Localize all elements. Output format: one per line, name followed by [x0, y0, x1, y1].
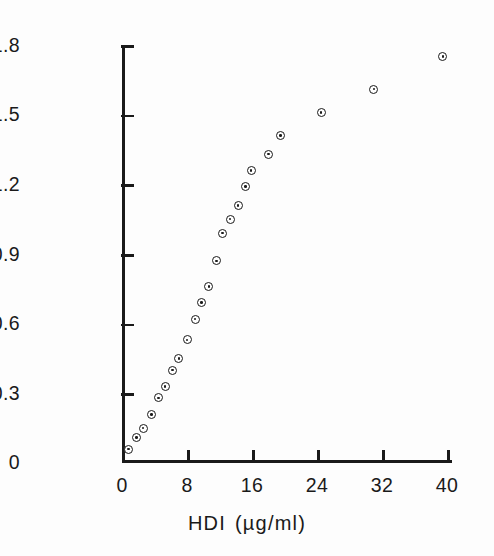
data-point — [191, 315, 200, 324]
x-tick-label: 16 — [222, 476, 282, 496]
data-point — [317, 108, 326, 117]
x-axis-line — [122, 460, 452, 463]
plot-area — [122, 45, 452, 463]
chart-figure: 1.8 1.5 1.2 0.9 0.6 0.3 0 0 8 16 24 32 4… — [0, 0, 494, 556]
data-point — [197, 298, 206, 307]
data-point — [234, 201, 243, 210]
data-point — [369, 85, 378, 94]
data-point — [438, 52, 447, 61]
y-tick-label: 1.2 — [0, 175, 20, 195]
data-point — [241, 182, 250, 191]
x-tick-label: 8 — [157, 476, 217, 496]
x-axis-tick — [252, 450, 255, 463]
y-axis-tick — [121, 45, 134, 48]
y-axis-tick — [121, 324, 134, 327]
x-tick-label: 32 — [352, 476, 412, 496]
x-axis-title-main: HDI — [188, 512, 226, 534]
data-point — [154, 393, 163, 402]
y-tick-label: 1.5 — [0, 105, 20, 125]
data-point — [204, 282, 213, 291]
data-point — [218, 229, 227, 238]
data-point — [124, 445, 133, 454]
data-point — [168, 366, 177, 375]
data-point — [147, 410, 156, 419]
data-point — [161, 382, 170, 391]
data-point — [226, 215, 235, 224]
data-point — [139, 424, 148, 433]
data-point — [132, 433, 141, 442]
data-point — [183, 335, 192, 344]
y-axis-tick — [121, 184, 134, 187]
x-axis-tick — [447, 450, 450, 463]
data-point — [264, 150, 273, 159]
x-tick-label: 40 — [417, 476, 477, 496]
x-axis-tick — [187, 450, 190, 463]
y-axis-tick — [121, 393, 134, 396]
x-axis-title: HDI(µg/ml) — [0, 513, 494, 533]
data-point — [276, 131, 285, 140]
y-tick-label: 0.6 — [0, 314, 20, 334]
y-tick-label: 0 — [0, 453, 20, 473]
y-tick-label: 1.8 — [0, 36, 20, 56]
y-tick-label: 0.3 — [0, 384, 20, 404]
x-axis-tick — [317, 450, 320, 463]
data-point — [247, 166, 256, 175]
y-axis-tick — [121, 115, 134, 118]
y-axis-tick — [121, 254, 134, 257]
x-axis-title-units: (µg/ml) — [235, 512, 306, 534]
x-tick-label: 24 — [287, 476, 347, 496]
y-tick-label: 0.9 — [0, 245, 20, 265]
data-point — [174, 354, 183, 363]
x-axis-tick — [382, 450, 385, 463]
x-tick-label: 0 — [92, 476, 152, 496]
data-point — [212, 256, 221, 265]
